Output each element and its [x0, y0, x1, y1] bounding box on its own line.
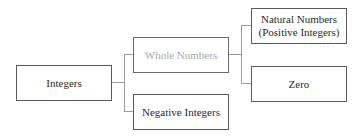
connector-to-negative-integers	[124, 111, 133, 112]
connector-to-zero	[241, 83, 251, 84]
connector-to-whole-numbers	[124, 54, 133, 55]
node-whole-numbers-label: Whole Numbers	[145, 49, 217, 62]
connector-whole-numbers-stem	[228, 54, 241, 55]
node-natural-numbers-sublabel: (Positive Integers)	[259, 26, 340, 39]
node-natural-numbers-label: Natural Numbers	[261, 13, 337, 26]
connector-integers-bus	[124, 54, 125, 112]
node-natural-numbers: Natural Numbers (Positive Integers)	[251, 8, 347, 44]
node-integers-label: Integers	[46, 77, 81, 90]
connector-integers-stem	[111, 82, 124, 83]
node-zero-label: Zero	[289, 78, 310, 91]
node-negative-integers: Negative Integers	[133, 94, 229, 130]
connector-to-natural-numbers	[241, 25, 251, 26]
node-negative-integers-label: Negative Integers	[142, 106, 220, 119]
node-zero: Zero	[251, 66, 347, 102]
connector-whole-numbers-bus	[241, 25, 242, 84]
node-whole-numbers: Whole Numbers	[133, 37, 229, 73]
node-integers: Integers	[16, 65, 112, 101]
